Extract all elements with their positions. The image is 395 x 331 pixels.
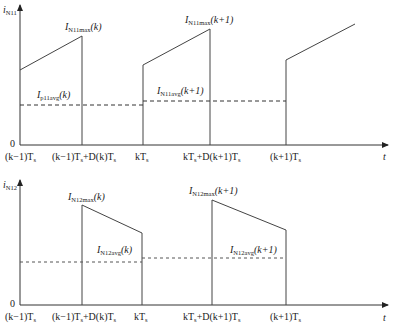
top-x-ticks: (k−1)Ts (k−1)Ts+D(k)Ts kTs kTs+D(k+1)Ts …: [5, 151, 301, 163]
bottom-x-ticks: (k−1)Ts (k−1)Ts+D(k)Ts kTs kTs+D(k+1)Ts …: [5, 311, 301, 323]
tick-k: kTs: [135, 151, 149, 163]
top-max-k-label: IN11max(k): [64, 21, 102, 33]
bottom-max-k1-label: IN12max(k+1): [188, 185, 238, 197]
top-plot: iN11 0 t IN11max(k) IN11max(k+1) Ip11avg…: [3, 4, 388, 163]
top-max-k1-label: IN11max(k+1): [184, 14, 234, 26]
top-avg-k1-label: IN11avg(k+1): [156, 85, 204, 97]
tick-k-minus-1-plus-d: (k−1)Ts+D(k)Ts: [52, 151, 117, 163]
bottom-plot: iN12 0 t IN12max(k) IN12max(k+1) IN12avg…: [3, 179, 388, 323]
bottom-t-label: t: [383, 312, 386, 323]
top-pulse-1: [20, 36, 82, 145]
top-y-axis-label: iN11: [3, 4, 17, 16]
top-t-label: t: [383, 151, 386, 162]
tick-k: kTs: [134, 311, 148, 323]
bottom-max-k-label: IN12max(k): [67, 191, 106, 203]
bottom-avg-k-label: IN12avg(k): [96, 244, 133, 256]
top-pulse-3: [286, 24, 355, 145]
top-origin-label: 0: [10, 138, 15, 149]
tick-k-plus-d: kTs+D(k+1)Ts: [183, 311, 241, 323]
bottom-origin-label: 0: [10, 298, 15, 309]
tick-k-plus-d: kTs+D(k+1)Ts: [183, 151, 241, 163]
waveform-diagram: iN11 0 t IN11max(k) IN11max(k+1) Ip11avg…: [0, 0, 395, 331]
bottom-y-axis-label: iN12: [3, 179, 17, 191]
tick-k-minus-1-plus-d: (k−1)Ts+D(k)Ts: [52, 311, 117, 323]
tick-k-minus-1: (k−1)Ts: [5, 311, 36, 323]
tick-k-plus-1: (k+1)Ts: [270, 151, 301, 163]
tick-k-minus-1: (k−1)Ts: [5, 151, 36, 163]
bottom-avg-k1-label: IN12avg(k+1): [229, 244, 277, 256]
top-avg-k-label: Ip11avg(k): [36, 89, 71, 101]
tick-k-plus-1: (k+1)Ts: [270, 311, 301, 323]
